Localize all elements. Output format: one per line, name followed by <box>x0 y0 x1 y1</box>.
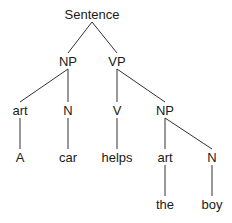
node-art-object: art <box>157 151 172 164</box>
word-the: the <box>156 198 174 211</box>
node-vp: VP <box>108 55 125 68</box>
edge-vp-np <box>117 69 165 102</box>
edge-sentence-vp <box>92 22 117 53</box>
node-n-object: N <box>207 151 216 164</box>
node-np-object: NP <box>156 104 174 117</box>
node-np: NP <box>59 55 77 68</box>
node-art: art <box>12 104 27 117</box>
edge-np2-n <box>165 118 212 149</box>
word-boy: boy <box>202 198 223 211</box>
node-sentence: Sentence <box>65 8 120 21</box>
word-car: car <box>59 151 77 164</box>
edge-sentence-np <box>68 22 92 53</box>
word-helps: helps <box>101 151 132 164</box>
node-n: N <box>63 104 72 117</box>
word-a: A <box>16 151 25 164</box>
edge-np-art <box>20 69 68 102</box>
node-v: V <box>113 104 122 117</box>
